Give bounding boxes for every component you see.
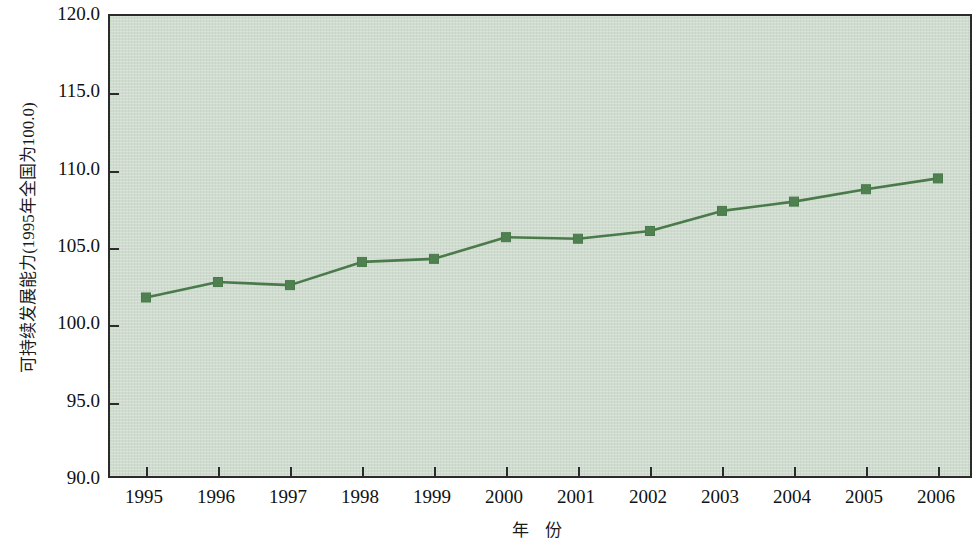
- x-axis-title: 年 份: [108, 516, 972, 541]
- data-point-marker: [718, 206, 727, 215]
- x-axis-tick-label: 2005: [828, 486, 900, 509]
- series-line: [146, 178, 938, 297]
- data-point-marker: [142, 293, 151, 302]
- data-point-marker: [862, 185, 871, 194]
- x-axis-tick-label: 1999: [396, 486, 468, 509]
- plot-area: [108, 14, 972, 478]
- y-axis-tick-label: 100.0: [30, 313, 100, 332]
- data-point-marker: [934, 174, 943, 183]
- x-axis-tick-label: 2004: [756, 486, 828, 509]
- data-point-marker: [574, 234, 583, 243]
- y-axis-tick-labels: 90.095.0100.0105.0110.0115.0120.0: [26, 0, 100, 546]
- x-axis-tick-label: 2006: [900, 486, 972, 509]
- y-axis-tick-label: 120.0: [30, 4, 100, 23]
- y-axis-tick-label: 105.0: [30, 236, 100, 255]
- x-axis-tick-label: 2003: [684, 486, 756, 509]
- data-point-marker: [790, 197, 799, 206]
- x-axis-tick-label: 1997: [252, 486, 324, 509]
- data-point-marker: [430, 254, 439, 263]
- data-point-marker: [286, 281, 295, 290]
- x-axis-tick-label: 1998: [324, 486, 396, 509]
- x-axis-tick-label: 1996: [180, 486, 252, 509]
- data-point-marker: [214, 278, 223, 287]
- data-point-marker: [646, 226, 655, 235]
- x-axis-tick-label: 2000: [468, 486, 540, 509]
- data-point-marker: [358, 257, 367, 266]
- data-series-layer: [110, 16, 974, 480]
- x-axis-tick-labels: 1995199619971998199920002001200220032004…: [108, 486, 972, 514]
- x-axis-tick-label: 1995: [108, 486, 180, 509]
- y-axis-tick-label: 115.0: [30, 81, 100, 100]
- sustainable-development-line-chart: 可持续发展能力(1995年全国为100.0) 90.095.0100.0105.…: [0, 0, 976, 546]
- data-point-marker: [502, 233, 511, 242]
- y-axis-tick-label: 90.0: [30, 468, 100, 487]
- x-axis-tick-label: 2001: [540, 486, 612, 509]
- y-axis-tick-label: 95.0: [30, 391, 100, 410]
- x-axis-tick-label: 2002: [612, 486, 684, 509]
- y-axis-tick-label: 110.0: [30, 159, 100, 178]
